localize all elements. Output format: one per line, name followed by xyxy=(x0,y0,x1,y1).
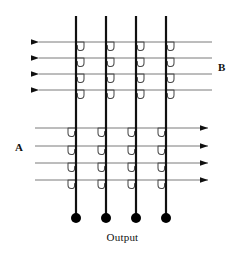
output-node-4 xyxy=(161,213,171,223)
synapse-b-r3-c1 xyxy=(77,74,85,83)
synapse-b-r4-c1 xyxy=(77,90,85,99)
synapse-b-r4-c2 xyxy=(107,90,115,99)
output-node-3 xyxy=(131,213,141,223)
synapse-b-r1-c4 xyxy=(167,42,175,51)
synapse-a-r3-c3 xyxy=(128,163,136,172)
crossbar-diagram xyxy=(0,0,245,253)
synapse-a-r1-c4 xyxy=(158,128,166,137)
synapse-b-r3-c2 xyxy=(107,74,115,83)
input-label-a: A xyxy=(15,142,23,153)
synapse-b-r4-c3 xyxy=(137,90,145,99)
synapse-a-r4-c2 xyxy=(98,180,106,189)
input-lines-a xyxy=(35,128,208,180)
synapse-a-r3-c4 xyxy=(158,163,166,172)
output-columns xyxy=(76,16,166,218)
output-node-1 xyxy=(71,213,81,223)
synapse-a-r4-c1 xyxy=(68,180,76,189)
synapse-a-r2-c2 xyxy=(98,146,106,155)
synapse-a-r4-c3 xyxy=(128,180,136,189)
synapse-a-r4-c4 xyxy=(158,180,166,189)
synapse-a-r2-c1 xyxy=(68,146,76,155)
synapse-b-r2-c1 xyxy=(77,58,85,67)
input-label-b: B xyxy=(218,62,225,73)
crossbar-array-figure: B A Output xyxy=(0,0,245,253)
synapse-b-r4-c4 xyxy=(167,90,175,99)
synapse-b-r1-c2 xyxy=(107,42,115,51)
output-label: Output xyxy=(0,231,245,243)
output-node-2 xyxy=(101,213,111,223)
synapses-a xyxy=(68,128,166,189)
synapse-a-r1-c2 xyxy=(98,128,106,137)
synapse-b-r1-c3 xyxy=(137,42,145,51)
synapse-b-r3-c3 xyxy=(137,74,145,83)
synapse-a-r3-c1 xyxy=(68,163,76,172)
synapse-b-r1-c1 xyxy=(77,42,85,51)
synapse-a-r1-c3 xyxy=(128,128,136,137)
synapse-b-r2-c3 xyxy=(137,58,145,67)
synapse-a-r1-c1 xyxy=(68,128,76,137)
synapse-a-r2-c3 xyxy=(128,146,136,155)
synapse-a-r2-c4 xyxy=(158,146,166,155)
synapse-b-r3-c4 xyxy=(167,74,175,83)
synapse-b-r2-c4 xyxy=(167,58,175,67)
synapse-a-r3-c2 xyxy=(98,163,106,172)
input-lines-b xyxy=(39,42,212,90)
output-nodes xyxy=(71,213,171,223)
synapse-b-r2-c2 xyxy=(107,58,115,67)
